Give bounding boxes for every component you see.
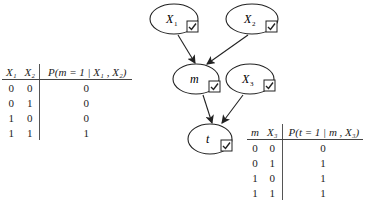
col-header: m xyxy=(247,124,263,140)
checkbox-icon xyxy=(209,81,220,92)
cpt-table-m: X₁ X₂ P(m = 1 | X₁ , X₂) 000 010 100 111 xyxy=(2,64,132,140)
table-row: 000 xyxy=(2,80,132,96)
cpt-table-t: m X₃ P(t = 1 | m , X₃) 000 011 101 111 xyxy=(247,124,363,200)
edge-x1-m xyxy=(178,35,195,63)
svg-text:3: 3 xyxy=(250,80,254,88)
checkbox-icon xyxy=(266,21,277,32)
edge-x2-m xyxy=(207,35,248,64)
checkbox-icon xyxy=(187,21,198,32)
table-row: 000 xyxy=(247,140,363,156)
table-row: 111 xyxy=(2,125,132,140)
node-x2: X 2 xyxy=(226,4,278,34)
table-row: 111 xyxy=(247,185,363,200)
table-row: 101 xyxy=(247,170,363,185)
svg-text:X: X xyxy=(165,12,174,26)
node-x3: X 3 xyxy=(226,64,275,94)
edge-x3-t xyxy=(222,95,243,123)
table-row: 010 xyxy=(2,95,132,110)
svg-text:m: m xyxy=(190,72,199,86)
col-header: X₃ xyxy=(263,124,282,140)
node-t: t xyxy=(188,124,232,154)
checkbox-icon xyxy=(264,80,275,91)
col-header: X₂ xyxy=(21,64,40,80)
table-row: 100 xyxy=(2,110,132,125)
svg-text:X: X xyxy=(243,12,252,26)
col-header: X₁ xyxy=(2,64,21,80)
edge-m-t xyxy=(203,95,212,123)
svg-text:X: X xyxy=(241,72,250,86)
table-row: 011 xyxy=(247,155,363,170)
svg-text:2: 2 xyxy=(252,20,256,28)
checkbox-icon xyxy=(221,140,232,151)
svg-text:1: 1 xyxy=(174,20,178,28)
node-m: m xyxy=(173,64,220,94)
node-x1: X 1 xyxy=(150,4,198,34)
col-header: P(t = 1 | m , X₃) xyxy=(282,124,363,140)
col-header: P(m = 1 | X₁ , X₂) xyxy=(40,64,133,80)
